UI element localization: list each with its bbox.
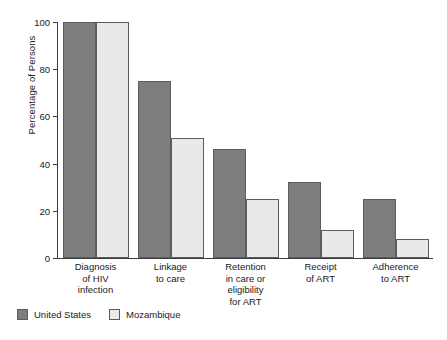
bar-group <box>213 22 279 258</box>
x-axis-category-labels: Diagnosis of HIV infectionLinkage to car… <box>58 261 434 311</box>
y-axis-tick-mark <box>53 116 57 117</box>
bar-mozambique <box>171 138 204 258</box>
y-axis-tick-label: 80 <box>39 64 50 75</box>
y-axis-tick-mark <box>53 211 57 212</box>
bar-group <box>138 22 204 258</box>
y-axis-tick-mark <box>53 69 57 70</box>
bar-groups <box>58 22 433 258</box>
bar-group <box>63 22 129 258</box>
y-axis-tick-label: 20 <box>39 205 50 216</box>
bar-united-states <box>63 22 96 258</box>
bar-mozambique <box>396 239 429 258</box>
bar-united-states <box>213 149 246 258</box>
legend-item: Mozambique <box>109 309 180 320</box>
y-axis-tick-mark <box>53 22 57 23</box>
legend-item: United States <box>17 309 91 320</box>
plot-area: 020406080100 <box>57 22 433 258</box>
legend-label: Mozambique <box>126 309 180 320</box>
bar-united-states <box>288 182 321 258</box>
bar-group <box>363 22 429 258</box>
legend-label: United States <box>34 309 91 320</box>
y-axis-tick: 0 <box>57 258 58 259</box>
bar-mozambique <box>96 22 129 258</box>
y-axis-tick-label: 100 <box>34 17 50 28</box>
legend-swatch-icon <box>17 309 28 320</box>
bar-mozambique <box>321 230 354 258</box>
x-axis-line <box>57 258 433 259</box>
bar-united-states <box>363 199 396 258</box>
bar-mozambique <box>246 199 279 258</box>
bar-group <box>288 22 354 258</box>
bar-united-states <box>138 81 171 258</box>
y-axis-tick-mark <box>53 164 57 165</box>
chart-legend: United StatesMozambique <box>17 309 180 320</box>
y-axis-tick-mark <box>53 258 57 259</box>
y-axis-title: Percentage of Persons <box>22 0 42 200</box>
y-axis-tick-label: 0 <box>45 253 50 264</box>
bar-chart: Percentage of Persons 020406080100 Diagn… <box>0 0 447 340</box>
legend-swatch-icon <box>109 309 120 320</box>
y-axis-tick-label: 40 <box>39 158 50 169</box>
y-axis-tick-label: 60 <box>39 111 50 122</box>
x-axis-category-label: Adherence to ART <box>352 261 440 284</box>
